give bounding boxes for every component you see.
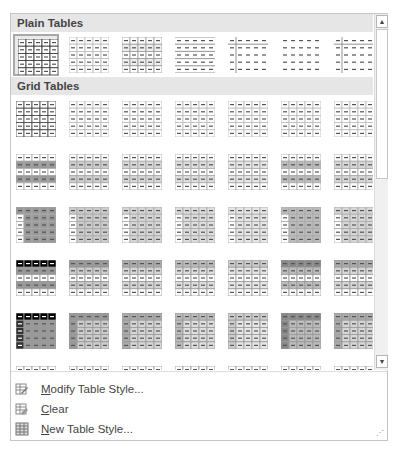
clear-menu-item[interactable]: Clear	[11, 399, 387, 419]
table-style-preview-icon	[69, 207, 109, 243]
table-style-preview-icon	[122, 154, 162, 190]
table-style-thumbnail[interactable]	[225, 204, 271, 246]
table-style-preview-icon	[334, 313, 373, 349]
table-style-thumbnail[interactable]	[172, 257, 218, 299]
table-style-preview-icon	[69, 154, 109, 190]
table-style-thumbnail[interactable]	[119, 34, 165, 76]
table-style-thumbnail[interactable]	[119, 310, 165, 352]
table-style-thumbnail[interactable]	[66, 257, 112, 299]
table-style-thumbnail[interactable]	[331, 98, 373, 140]
table-style-thumbnail[interactable]	[225, 310, 271, 352]
table-style-preview-icon	[122, 207, 162, 243]
table-style-thumbnail[interactable]	[66, 34, 112, 76]
table-style-thumbnail[interactable]	[119, 363, 165, 370]
clear-table-style-icon	[15, 402, 29, 416]
modify-table-style-menu-item[interactable]: Modify Table Style...	[11, 379, 387, 399]
table-style-preview-icon	[175, 101, 215, 137]
table-style-thumbnail[interactable]	[278, 310, 324, 352]
resize-grip[interactable]: ⋰	[376, 428, 384, 437]
table-style-thumbnail[interactable]	[278, 98, 324, 140]
clear-label: Clear	[41, 403, 69, 415]
table-style-thumbnail[interactable]	[172, 204, 218, 246]
table-style-thumbnail[interactable]	[66, 98, 112, 140]
table-style-thumbnail[interactable]	[13, 363, 59, 370]
table-style-preview-icon	[69, 313, 109, 349]
table-style-preview-icon	[16, 207, 56, 243]
table-style-thumbnail[interactable]	[66, 310, 112, 352]
table-style-thumbnail[interactable]	[331, 151, 373, 193]
table-style-preview-icon	[69, 366, 109, 370]
new-table-style-menu-item[interactable]: New Table Style...	[11, 419, 387, 439]
table-style-thumbnail[interactable]	[331, 310, 373, 352]
table-style-preview-icon	[281, 260, 321, 296]
table-style-preview-icon	[18, 39, 58, 75]
table-style-thumbnail[interactable]	[13, 34, 59, 76]
table-style-preview-icon	[281, 37, 321, 73]
table-style-preview-icon	[228, 260, 268, 296]
table-style-preview-icon	[175, 154, 215, 190]
table-style-thumbnail[interactable]	[119, 257, 165, 299]
table-style-thumbnail[interactable]	[13, 204, 59, 246]
table-style-thumbnail[interactable]	[66, 204, 112, 246]
table-style-menu: Modify Table Style... Clear New Table St…	[11, 379, 387, 439]
scroll-up-button[interactable]: ▲	[376, 15, 388, 28]
table-style-preview-icon	[122, 260, 162, 296]
table-style-thumbnail[interactable]	[172, 151, 218, 193]
table-style-preview-icon	[228, 313, 268, 349]
table-style-preview-icon	[281, 207, 321, 243]
table-style-preview-icon	[122, 366, 162, 370]
table-style-thumbnail[interactable]	[172, 363, 218, 370]
table-styles-gallery: Plain Tables Grid Tables	[11, 14, 373, 370]
table-style-thumbnail[interactable]	[225, 34, 271, 76]
table-style-thumbnail[interactable]	[225, 98, 271, 140]
table-style-preview-icon	[228, 101, 268, 137]
table-style-preview-icon	[16, 366, 56, 370]
table-style-preview-icon	[334, 207, 373, 243]
gallery-scrollbar[interactable]: ▲ ▼	[374, 14, 388, 370]
new-table-style-icon	[15, 422, 29, 436]
modify-table-style-icon	[15, 382, 29, 396]
scrollbar-thumb[interactable]	[376, 29, 388, 179]
table-style-thumbnail[interactable]	[278, 363, 324, 370]
table-style-thumbnail[interactable]	[13, 98, 59, 140]
table-style-preview-icon	[16, 101, 56, 137]
table-style-thumbnail[interactable]	[66, 151, 112, 193]
table-style-thumbnail[interactable]	[278, 257, 324, 299]
table-style-preview-icon	[281, 154, 321, 190]
table-style-thumbnail[interactable]	[331, 204, 373, 246]
table-style-thumbnail[interactable]	[172, 98, 218, 140]
modify-table-style-label: Modify Table Style...	[41, 383, 144, 395]
scroll-down-button[interactable]: ▼	[376, 355, 388, 368]
section-header-grid-tables: Grid Tables	[11, 77, 373, 95]
table-style-preview-icon	[334, 366, 373, 370]
table-style-preview-icon	[122, 37, 162, 73]
table-style-thumbnail[interactable]	[331, 257, 373, 299]
table-style-thumbnail[interactable]	[225, 257, 271, 299]
table-style-preview-icon	[69, 37, 109, 73]
table-style-thumbnail[interactable]	[225, 363, 271, 370]
table-style-thumbnail[interactable]	[119, 204, 165, 246]
menu-divider	[11, 371, 387, 372]
table-style-preview-icon	[281, 313, 321, 349]
table-style-thumbnail[interactable]	[278, 34, 324, 76]
table-style-preview-icon	[334, 154, 373, 190]
table-style-thumbnail[interactable]	[13, 151, 59, 193]
table-style-thumbnail[interactable]	[225, 151, 271, 193]
table-style-thumbnail[interactable]	[331, 363, 373, 370]
table-style-preview-icon	[175, 207, 215, 243]
table-style-thumbnail[interactable]	[13, 310, 59, 352]
table-style-thumbnail[interactable]	[278, 204, 324, 246]
table-style-thumbnail[interactable]	[119, 151, 165, 193]
table-style-preview-icon	[175, 313, 215, 349]
table-style-thumbnail[interactable]	[331, 34, 373, 76]
table-style-thumbnail[interactable]	[13, 257, 59, 299]
table-style-thumbnail[interactable]	[119, 98, 165, 140]
table-style-preview-icon	[122, 101, 162, 137]
table-style-thumbnail[interactable]	[172, 34, 218, 76]
table-style-thumbnail[interactable]	[66, 363, 112, 370]
section-header-plain-tables: Plain Tables	[11, 14, 373, 32]
table-style-preview-icon	[69, 101, 109, 137]
table-style-preview-icon	[175, 37, 215, 73]
table-style-thumbnail[interactable]	[278, 151, 324, 193]
table-style-thumbnail[interactable]	[172, 310, 218, 352]
